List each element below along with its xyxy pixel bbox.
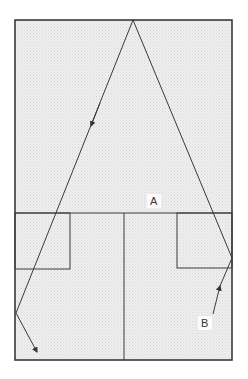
diagram-canvas: A B — [0, 0, 248, 379]
label-b: B — [201, 317, 208, 329]
label-a: A — [150, 195, 158, 207]
